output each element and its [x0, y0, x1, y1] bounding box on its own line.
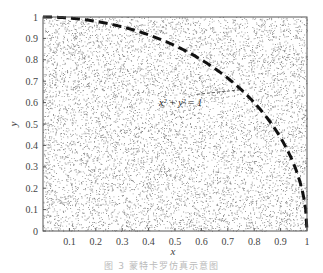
equation-annotation: x² + y² = 1: [158, 97, 202, 108]
y-tick-label: 0.2: [26, 183, 39, 194]
y-tick-label: 0.9: [26, 33, 39, 44]
x-tick-label: 0.2: [90, 236, 103, 247]
random-points: [43, 17, 308, 232]
plot-frame: [43, 17, 307, 231]
x-tick-label: 0.7: [222, 236, 235, 247]
x-tick-label: 0.4: [142, 236, 155, 247]
y-tick-label: 0.7: [26, 76, 39, 87]
x-axis-label: x: [170, 245, 176, 257]
scatter-points: [43, 17, 308, 232]
y-tick-label: 0.8: [26, 54, 39, 65]
y-axis-label: y: [7, 121, 19, 127]
y-tick-label: 0.4: [26, 140, 39, 151]
y-tick-label: 0.1: [26, 204, 39, 215]
monte-carlo-scatter-chart: x² + y² = 1 0.10.20.30.40.50.60.70.80.91…: [0, 0, 323, 273]
y-tick-label: 0.6: [26, 97, 39, 108]
y-tick-label: 0: [33, 226, 38, 237]
x-tick-label: 0.9: [274, 236, 287, 247]
x-tick-label: 1: [305, 236, 310, 247]
unit-circle-curve: [43, 17, 307, 231]
x-tick-label: 0.1: [63, 236, 76, 247]
figure-caption: 图 3 蒙特卡罗仿真示意图: [0, 259, 323, 272]
x-tick-label: 0.3: [116, 236, 129, 247]
y-tick-label: 0.3: [26, 161, 39, 172]
y-tick-label: 1: [33, 12, 38, 23]
x-tick-label: 0.8: [248, 236, 261, 247]
y-tick-label: 0.5: [26, 119, 39, 130]
x-tick-label: 0.6: [195, 236, 208, 247]
